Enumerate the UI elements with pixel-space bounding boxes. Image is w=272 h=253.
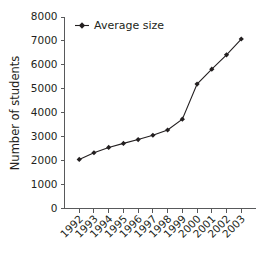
- y-tick-label: 4000: [31, 106, 58, 118]
- legend-entry-label: Average size: [94, 19, 164, 32]
- y-tick-label: 6000: [31, 58, 58, 70]
- y-tick-label: 5000: [31, 82, 58, 94]
- y-tick-label: 1000: [31, 178, 58, 190]
- y-tick-label: 7000: [31, 34, 58, 46]
- y-axis-title: Number of students: [8, 56, 22, 171]
- y-tick-label: 2000: [31, 154, 58, 166]
- y-axis-title-text: Number of students: [8, 56, 22, 171]
- line-chart: Number of students 010002000300040005000…: [0, 0, 272, 253]
- y-tick-label: 0: [51, 202, 58, 214]
- y-tick-label: 8000: [31, 10, 58, 22]
- y-tick-label: 3000: [31, 130, 58, 142]
- chart-plot-area: Number of students 010002000300040005000…: [0, 0, 272, 253]
